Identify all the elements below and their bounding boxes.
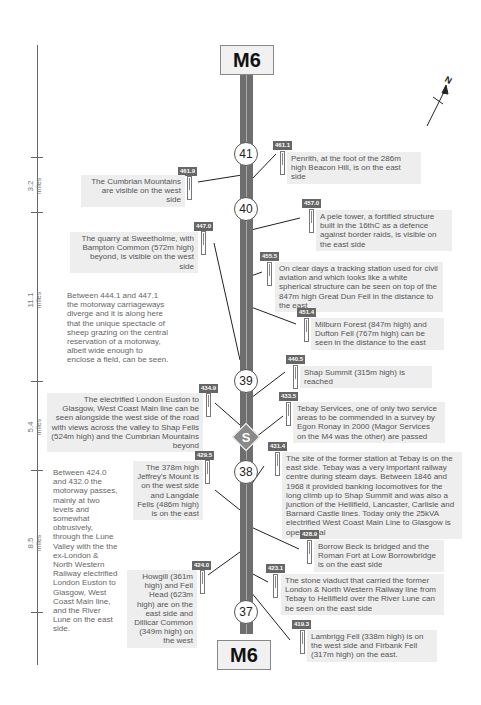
marker-post-icon xyxy=(267,262,272,286)
marker-post-icon xyxy=(286,402,291,426)
marker-post-icon xyxy=(201,231,206,255)
junction-number: 39 xyxy=(239,374,252,388)
junction-number: 37 xyxy=(239,605,252,619)
note-west-coast-main-line: The electrified London Euston to Glasgow… xyxy=(47,393,203,452)
marker-post-icon xyxy=(273,574,278,598)
note-shap-summit: Shap Summit (315m high) is reached xyxy=(300,366,432,388)
note-cumbrian-mountains: The Cumbrian Mountains are visible on th… xyxy=(81,175,185,207)
marker-post-icon xyxy=(293,365,298,389)
junction-37[interactable]: 37 xyxy=(234,600,258,624)
mile-marker-badge: 431.4 xyxy=(268,442,287,451)
mile-marker-badge: 455.5 xyxy=(260,252,279,261)
junction-39[interactable]: 39 xyxy=(234,369,258,393)
note-penrith: Penrith, at the foot of the 286m high Be… xyxy=(287,152,421,184)
note-borrow-beck: Borrow Beck is bridged and the Roman For… xyxy=(314,540,444,572)
marker-post-icon xyxy=(206,393,211,417)
marker-post-icon xyxy=(309,209,314,233)
mile-marker-badge: 461.1 xyxy=(273,141,292,150)
note-lambrigg-fell: Lambrigg Fell (338m high) is on the west… xyxy=(307,630,437,662)
road-name: M6 xyxy=(233,49,261,72)
mile-marker-badge: 429.5 xyxy=(195,451,214,460)
note-tebay-station: The site of the former station at Tebay … xyxy=(282,452,462,539)
marker-post-icon xyxy=(275,452,280,476)
junction-38[interactable]: 38 xyxy=(234,460,258,484)
marker-post-icon xyxy=(205,460,210,484)
note-milburn-forest: Milburn Forest (847m high) and Dufton Fe… xyxy=(311,318,444,350)
mile-marker-badge: 457.0 xyxy=(302,199,321,208)
marker-post-icon xyxy=(304,318,309,342)
section-note-sheep-grazing: Between 444.1 and 447.1 the motorway car… xyxy=(67,291,171,365)
note-howgill: Howgill (361m high) and Fell Head (623m … xyxy=(127,570,197,648)
marker-post-icon xyxy=(200,570,205,594)
road-sign-bottom: M6 xyxy=(217,640,271,670)
note-sweetholme-quarry: The quarry at Sweetholme, with Bampton C… xyxy=(70,232,198,273)
marker-post-icon xyxy=(307,540,312,564)
mile-marker-badge: 434.9 xyxy=(199,384,218,393)
junction-41[interactable]: 41 xyxy=(234,142,258,166)
marker-post-icon xyxy=(187,176,192,200)
junction-number: 41 xyxy=(239,147,252,161)
road-name: M6 xyxy=(230,644,258,667)
note-jeffreys-mount: The 378m high Jeffrey's Mount is on the … xyxy=(133,461,203,520)
note-tebay-services: Tebay Services, one of only two service … xyxy=(293,402,445,443)
mile-marker-badge: 428.9 xyxy=(300,530,319,539)
mile-marker-badge: 447.0 xyxy=(194,222,213,231)
road-sign-top: M6 xyxy=(220,45,274,75)
marker-post-icon xyxy=(280,151,285,175)
services-marker[interactable]: S xyxy=(236,427,256,447)
junction-40[interactable]: 40 xyxy=(234,197,258,221)
note-pele-tower: A pele tower, a fortified structure buil… xyxy=(316,210,452,251)
compass-icon xyxy=(427,85,448,126)
note-tracking-station: On clear days a tracking station used fo… xyxy=(275,262,443,312)
marker-post-icon xyxy=(300,630,305,654)
mile-marker-badge: 433.5 xyxy=(279,392,298,401)
junction-number: 38 xyxy=(239,465,252,479)
mile-marker-badge: 424.0 xyxy=(192,561,211,570)
mile-marker-badge: 451.4 xyxy=(297,308,316,317)
note-stone-viaduct: The stone viaduct that carried the forme… xyxy=(281,574,444,615)
mile-marker-badge: 419.3 xyxy=(292,620,311,629)
section-note-lune-valley: Between 424.0 and 432.0 the motorway pas… xyxy=(53,468,119,634)
junction-number: 40 xyxy=(239,202,252,216)
mile-marker-badge: 440.5 xyxy=(286,355,305,364)
mile-marker-badge: 423.1 xyxy=(266,564,285,573)
